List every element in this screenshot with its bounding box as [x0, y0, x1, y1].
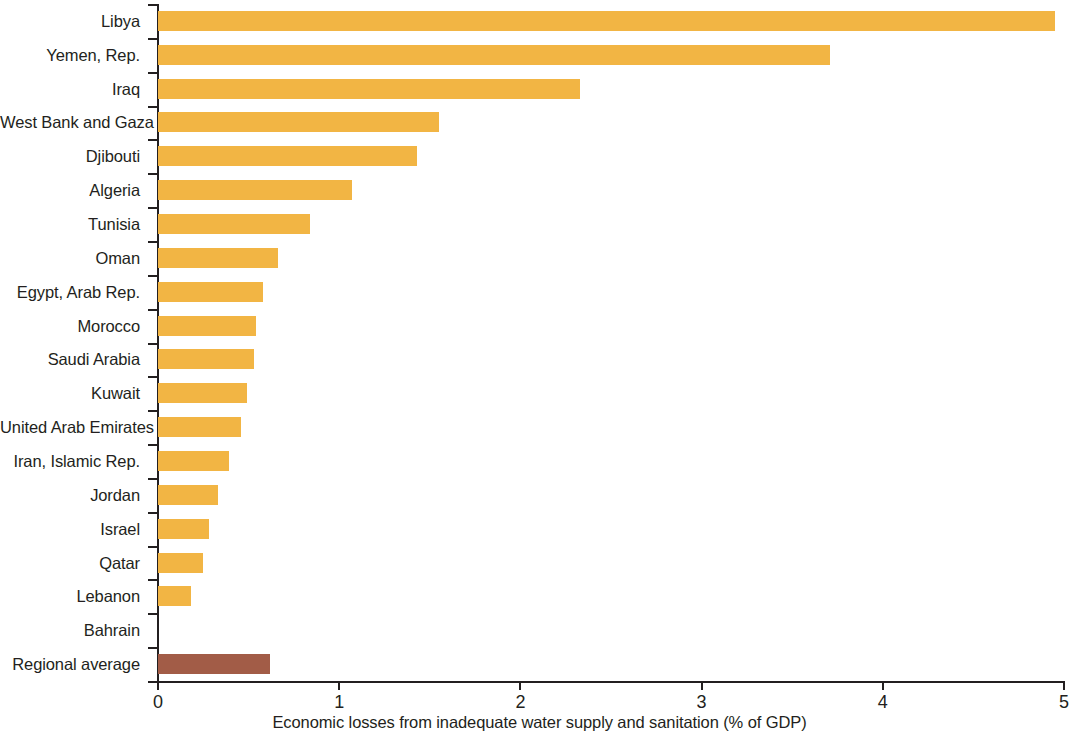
bar-row: [158, 512, 1064, 546]
bar-row: [158, 478, 1064, 512]
bar-row: [158, 376, 1064, 410]
category-label: West Bank and Gaza: [0, 113, 140, 131]
y-axis-tick: [148, 106, 159, 108]
x-axis-tick: [1063, 681, 1065, 690]
bar-row: [158, 241, 1064, 275]
x-axis-tick-label: 4: [878, 691, 888, 713]
y-axis-tick: [148, 139, 159, 141]
bar-row: [158, 410, 1064, 444]
bar[interactable]: [158, 383, 247, 403]
category-label: Qatar: [0, 554, 140, 572]
category-label: Iran, Islamic Rep.: [0, 452, 140, 470]
bar[interactable]: [158, 316, 256, 336]
category-label: Israel: [0, 520, 140, 538]
bar-row: [158, 546, 1064, 580]
x-axis-tick: [519, 681, 521, 690]
bar-row: [158, 72, 1064, 106]
x-axis-tick-label: 5: [1059, 691, 1069, 713]
bar[interactable]: [158, 553, 203, 573]
y-axis-tick: [148, 241, 159, 243]
bar-chart: LibyaYemen, Rep.IraqWest Bank and GazaDj…: [0, 0, 1079, 741]
category-label: Morocco: [0, 317, 140, 335]
x-axis-tick: [882, 681, 884, 690]
x-axis-line: [157, 681, 1065, 683]
bar-row: [158, 38, 1064, 72]
bar-row: [158, 139, 1064, 173]
bar[interactable]: [158, 112, 439, 132]
bar[interactable]: [158, 519, 209, 539]
y-axis-tick: [148, 613, 159, 615]
bar[interactable]: [158, 654, 270, 674]
bar-row: [158, 309, 1064, 343]
bar[interactable]: [158, 485, 218, 505]
bar[interactable]: [158, 586, 191, 606]
y-axis-tick: [148, 546, 159, 548]
x-axis-tick: [338, 681, 340, 690]
category-label: Tunisia: [0, 215, 140, 233]
category-label: Bahrain: [0, 621, 140, 639]
bar-row: [158, 343, 1064, 377]
bar[interactable]: [158, 79, 580, 99]
y-axis-tick: [148, 579, 159, 581]
x-axis-tick: [701, 681, 703, 690]
bar[interactable]: [158, 45, 830, 65]
x-axis-tick: [157, 681, 159, 690]
y-axis-tick: [148, 444, 159, 446]
y-axis-tick: [148, 275, 159, 277]
bar-row: [158, 207, 1064, 241]
bar[interactable]: [158, 11, 1055, 31]
bar-row: [158, 613, 1064, 647]
bar[interactable]: [158, 146, 417, 166]
category-axis-labels: LibyaYemen, Rep.IraqWest Bank and GazaDj…: [0, 4, 148, 681]
y-axis-tick: [148, 72, 159, 74]
x-axis-tick-label: 0: [153, 691, 163, 713]
bar-row: [158, 173, 1064, 207]
x-axis-title: Economic losses from inadequate water su…: [0, 712, 1079, 732]
x-axis-tick-label: 1: [334, 691, 344, 713]
category-label: Saudi Arabia: [0, 350, 140, 368]
y-axis-tick: [148, 343, 159, 345]
y-axis-tick: [148, 478, 159, 480]
category-label: United Arab Emirates: [0, 418, 140, 436]
y-axis-tick: [148, 376, 159, 378]
category-label: Regional average: [0, 655, 140, 673]
bar-row: [158, 579, 1064, 613]
bar[interactable]: [158, 349, 254, 369]
y-axis-tick: [148, 512, 159, 514]
x-axis-tick-label: 2: [515, 691, 525, 713]
category-label: Egypt, Arab Rep.: [0, 283, 140, 301]
plot-area: [158, 4, 1064, 681]
category-label: Jordan: [0, 486, 140, 504]
y-axis-tick: [148, 207, 159, 209]
category-label: Iraq: [0, 80, 140, 98]
bar-row: [158, 106, 1064, 140]
y-axis-tick: [148, 4, 159, 6]
bar[interactable]: [158, 214, 310, 234]
category-label: Kuwait: [0, 384, 140, 402]
y-axis-tick: [148, 309, 159, 311]
category-label: Libya: [0, 12, 140, 30]
y-axis-tick: [148, 647, 159, 649]
y-axis-tick: [148, 173, 159, 175]
y-axis-tick: [148, 410, 159, 412]
bar[interactable]: [158, 248, 278, 268]
category-label: Oman: [0, 249, 140, 267]
bar[interactable]: [158, 282, 263, 302]
category-label: Yemen, Rep.: [0, 46, 140, 64]
bar-row: [158, 647, 1064, 681]
x-axis-tick-label: 3: [697, 691, 707, 713]
category-label: Algeria: [0, 181, 140, 199]
category-label: Lebanon: [0, 587, 140, 605]
bar-row: [158, 444, 1064, 478]
category-label: Djibouti: [0, 147, 140, 165]
bar[interactable]: [158, 451, 229, 471]
bar[interactable]: [158, 180, 352, 200]
bar-row: [158, 275, 1064, 309]
y-axis-tick: [148, 38, 159, 40]
bar[interactable]: [158, 417, 241, 437]
bar-row: [158, 4, 1064, 38]
